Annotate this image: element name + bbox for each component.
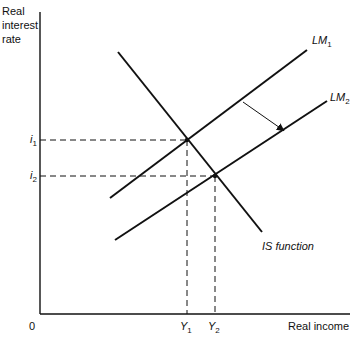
- lm1-label-sub: 1: [327, 40, 331, 49]
- y2-label-sub: 2: [215, 326, 219, 335]
- y1-label-sub: 1: [187, 326, 191, 335]
- equilibrium-2: [213, 174, 217, 178]
- i2-label-sub: 2: [32, 175, 36, 184]
- is-label: IS function: [262, 240, 314, 253]
- y2-label: Y2: [208, 320, 220, 334]
- is-lm-diagram: [0, 0, 361, 338]
- lm2-label-main: LM: [330, 91, 345, 103]
- i1-label-sub: 1: [32, 139, 36, 148]
- y-axis-label: Real interest rate: [2, 4, 38, 46]
- i2-label: i2: [30, 169, 37, 183]
- lm1-curve: [110, 50, 307, 198]
- is-curve: [118, 52, 262, 232]
- lm1-label-main: LM: [312, 34, 327, 46]
- x-axis-label: Real income: [288, 320, 349, 333]
- y1-label: Y1: [180, 320, 192, 334]
- origin-label: 0: [29, 320, 35, 333]
- shift-arrow-icon: [243, 102, 283, 130]
- y-axis-label-line-3: rate: [2, 32, 38, 46]
- lm2-label-sub: 2: [345, 97, 349, 106]
- i1-label: i1: [30, 133, 37, 147]
- equilibrium-1: [185, 138, 189, 142]
- lm1-label: LM1: [312, 34, 332, 48]
- y-axis-label-line-1: Real: [2, 4, 38, 18]
- y-axis-label-line-2: interest: [2, 18, 38, 32]
- lm2-label: LM2: [330, 91, 350, 105]
